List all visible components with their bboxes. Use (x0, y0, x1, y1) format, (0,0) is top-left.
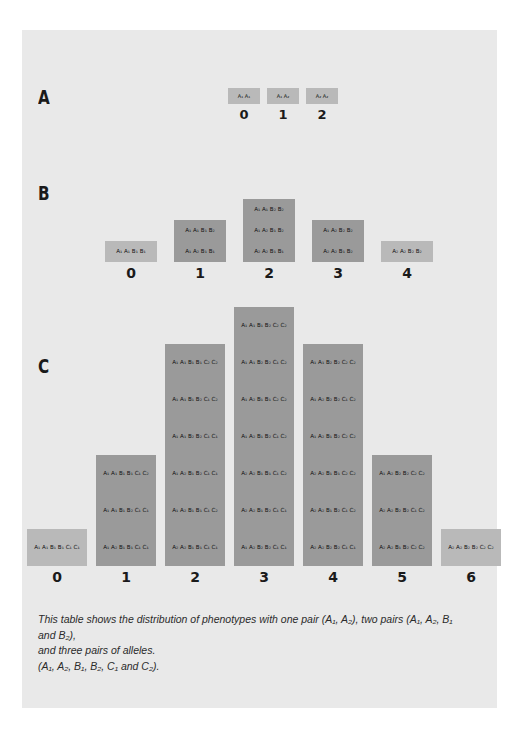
genotype-cell: A₂ A₂ B₂ B₂ (381, 241, 433, 262)
panel-c-chart: A₁ A₁ B₁ B₁ C₁ C₁A₁ A₂ B₁ B₁ C₁ C₁A₁ A₁ … (44, 298, 484, 566)
genotype-cell: A₁ A₂ B₂ B₂ C₁ C₂ (303, 381, 363, 418)
caption-line-1: This table shows the distribution of phe… (38, 612, 458, 643)
genotype-cell: A₁ A₂ B₁ B₁ C₂ C₂ (234, 381, 294, 418)
axis-tick-label: 0 (228, 107, 260, 122)
genotype-cell: A₂ A₂ B₁ B₂ C₂ C₂ (372, 529, 432, 566)
axis-tick-label: 0 (27, 569, 87, 585)
bar-column: A₂ A₂ B₂ B₂ C₂ C₂ (441, 529, 501, 566)
axis-tick-label: 2 (306, 107, 338, 122)
bar-column: A₂ A₂ B₁ B₂A₁ A₂ B₂ B₂ (312, 220, 364, 262)
genotype-cell: A₁ A₁ (228, 88, 260, 104)
panel-b-chart: A₁ A₁ B₁ B₁A₁ A₂ B₁ B₁A₁ A₁ B₁ B₂A₂ A₂ B… (104, 196, 434, 262)
genotype-cell: A₁ A₂ B₂ B₂ (312, 220, 364, 241)
figure-page: A A₁ A₁A₁ A₂A₂ A₂ 012 B A₁ A₁ B₁ B₁A₁ A₂… (0, 0, 521, 741)
genotype-cell: A₁ A₁ B₁ B₁ (105, 241, 157, 262)
genotype-cell: A₂ A₂ B₁ B₁ C₂ C₂ (303, 455, 363, 492)
genotype-cell: A₁ A₁ B₁ B₂ C₂ C₂ (234, 307, 294, 344)
panel-letter-b: B (38, 182, 50, 204)
bar-column: A₂ A₂ B₂ B₂ (381, 241, 433, 262)
axis-tick-label: 2 (243, 265, 295, 281)
genotype-cell: A₂ A₂ B₁ B₂ (312, 241, 364, 262)
genotype-cell: A₁ A₂ B₁ B₁ C₁ C₁ (96, 529, 156, 566)
panel-a-chart: A₁ A₁A₁ A₂A₂ A₂ (218, 86, 348, 104)
genotype-cell: A₂ A₂ B₁ B₂ C₁ C₁ (234, 492, 294, 529)
bar-column: A₁ A₁ (228, 88, 260, 104)
genotype-cell: A₁ A₁ B₂ B₂ C₂ C₂ (303, 344, 363, 381)
genotype-cell: A₁ A₂ B₁ B₂ (243, 220, 295, 241)
axis-tick-label: 4 (303, 569, 363, 585)
genotype-cell: A₁ A₁ B₂ B₂ (243, 199, 295, 220)
genotype-cell: A₁ A₂ B₁ B₁ C₁ C₂ (165, 492, 225, 529)
axis-tick-label: 3 (312, 265, 364, 281)
bar-column: A₁ A₂ B₁ B₁A₁ A₁ B₁ B₂ (174, 220, 226, 262)
genotype-cell: A₂ A₂ B₂ B₂ C₁ C₁ (303, 529, 363, 566)
panel-letter-a: A (38, 86, 50, 108)
bar-column: A₁ A₂ B₁ B₁ C₁ C₁A₁ A₁ B₁ B₂ C₁ C₁A₁ A₁ … (96, 455, 156, 566)
genotype-cell: A₁ A₁ B₂ B₂ C₁ C₁ (165, 418, 225, 455)
figure-caption: This table shows the distribution of phe… (38, 612, 458, 674)
genotype-cell: A₁ A₂ B₁ B₂ C₂ C₂ (303, 418, 363, 455)
panel-a-axis: 012 (218, 106, 348, 126)
axis-tick-label: 1 (267, 107, 299, 122)
axis-tick-label: 1 (96, 569, 156, 585)
genotype-cell: A₁ A₁ B₁ B₂ C₁ C₁ (96, 492, 156, 529)
genotype-cell: A₂ A₂ B₁ B₁ C₁ C₁ (165, 529, 225, 566)
genotype-cell: A₁ A₂ B₁ B₂ C₁ C₂ (234, 418, 294, 455)
genotype-cell: A₁ A₂ (267, 88, 299, 104)
axis-tick-label: 0 (105, 265, 157, 281)
bar-column: A₂ A₂ B₁ B₁ C₁ C₁A₁ A₂ B₁ B₁ C₁ C₂A₁ A₂ … (165, 344, 225, 566)
bar-column: A₁ A₂ B₂ B₂ C₁ C₁A₂ A₂ B₁ B₂ C₁ C₁A₂ A₂ … (234, 307, 294, 566)
bar-column: A₁ A₁ B₁ B₁ C₁ C₁ (27, 529, 87, 566)
genotype-cell: A₂ A₂ B₁ B₁ C₁ C₂ (234, 455, 294, 492)
genotype-cell: A₁ A₁ B₁ B₁ C₁ C₂ (96, 455, 156, 492)
axis-tick-label: 3 (234, 569, 294, 585)
genotype-cell: A₂ A₂ B₁ B₂ C₁ C₂ (303, 492, 363, 529)
axis-tick-label: 4 (381, 265, 433, 281)
genotype-cell: A₁ A₁ B₁ B₂ (174, 220, 226, 241)
genotype-cell: A₁ A₂ B₁ B₂ C₁ C₁ (165, 455, 225, 492)
bar-column: A₂ A₂ B₂ B₂ C₁ C₁A₂ A₂ B₁ B₂ C₁ C₂A₂ A₂ … (303, 344, 363, 566)
bar-column: A₁ A₂ (267, 88, 299, 104)
genotype-cell: A₁ A₂ B₁ B₁ (174, 241, 226, 262)
figure-card: A A₁ A₁A₁ A₂A₂ A₂ 012 B A₁ A₁ B₁ B₁A₁ A₂… (22, 30, 497, 708)
genotype-cell: A₂ A₂ B₂ B₂ C₂ C₂ (441, 529, 501, 566)
axis-tick-label: 6 (441, 569, 501, 585)
genotype-cell: A₂ A₂ B₁ B₁ (243, 241, 295, 262)
genotype-cell: A₂ A₂ (306, 88, 338, 104)
genotype-cell: A₂ A₂ B₂ B₂ C₁ C₂ (372, 492, 432, 529)
genotype-cell: A₁ A₂ B₂ B₂ C₁ C₁ (234, 529, 294, 566)
panel-c-axis: 0123456 (44, 568, 484, 588)
caption-line-2: and three pairs of alleles. (38, 643, 458, 659)
axis-tick-label: 5 (372, 569, 432, 585)
genotype-cell: A₁ A₁ B₂ B₂ C₁ C₂ (234, 344, 294, 381)
bar-column: A₁ A₁ B₁ B₁ (105, 241, 157, 262)
axis-tick-label: 1 (174, 265, 226, 281)
bar-column: A₂ A₂ B₁ B₁A₁ A₂ B₁ B₂A₁ A₁ B₂ B₂ (243, 199, 295, 262)
panel-b-axis: 01234 (104, 264, 434, 284)
genotype-cell: A₁ A₁ B₁ B₂ C₁ C₂ (165, 381, 225, 418)
genotype-cell: A₁ A₁ B₁ B₁ C₁ C₁ (27, 529, 87, 566)
genotype-cell: A₁ A₁ B₁ B₁ C₂ C₂ (165, 344, 225, 381)
axis-tick-label: 2 (165, 569, 225, 585)
bar-column: A₂ A₂ (306, 88, 338, 104)
caption-line-3: (A₁, A₂, B₁, B₂, C₁ and C₂). (38, 659, 458, 675)
genotype-cell: A₁ A₂ B₂ B₂ C₂ C₂ (372, 455, 432, 492)
bar-column: A₂ A₂ B₁ B₂ C₂ C₂A₂ A₂ B₂ B₂ C₁ C₂A₁ A₂ … (372, 455, 432, 566)
